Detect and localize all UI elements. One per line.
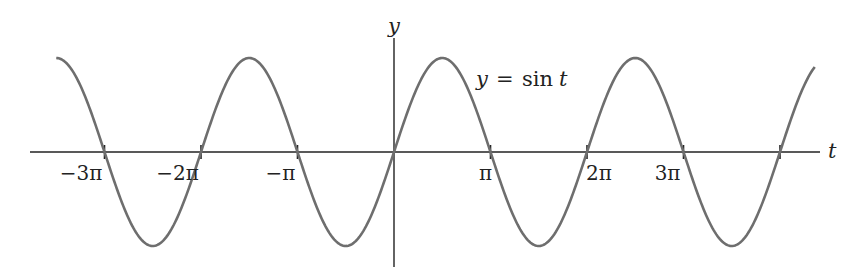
curve-label-var: t <box>559 67 568 91</box>
tick-labels: −3π−2π−ππ2π3π <box>60 161 681 185</box>
y-axis-label: y <box>387 14 401 38</box>
curve-label-eq: = <box>496 67 514 91</box>
x-tick-label: −π <box>266 161 296 185</box>
sine-graph: −3π−2π−ππ2π3π t y y = sin t <box>0 0 858 272</box>
curve-label: y = sin t <box>475 67 568 91</box>
x-tick-label: 2π <box>586 161 612 185</box>
curve-label-lhs: y <box>475 67 489 91</box>
t-axis-label: t <box>828 139 837 163</box>
x-tick-label: π <box>479 161 492 185</box>
x-tick-label: −3π <box>60 161 103 185</box>
curve-label-fn: sin <box>522 67 553 91</box>
x-tick-label: −2π <box>156 161 199 185</box>
plot-canvas: −3π−2π−ππ2π3π t y y = sin t <box>0 0 858 272</box>
x-tick-label: 3π <box>655 161 681 185</box>
